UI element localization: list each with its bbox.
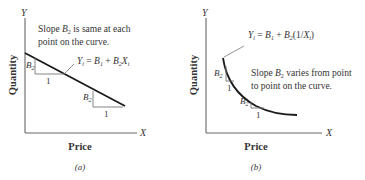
slope-note-a-line1: Slope B2 is same at each	[38, 24, 131, 35]
x-axis-label-b: X	[325, 127, 333, 138]
equation-leader-b	[224, 46, 244, 57]
triangle-a1-rise: B2	[26, 60, 35, 71]
equation-a: Yi = B1 + B2Xi	[77, 56, 130, 67]
triangle-a2-run: 1	[104, 109, 109, 119]
y-axis-label-a: Y	[21, 7, 28, 18]
triangle-b1-run: 1	[227, 83, 232, 93]
equation-leader-a	[64, 64, 74, 74]
x-axis-label-a: X	[139, 127, 147, 138]
triangle-a1-run: 1	[46, 76, 51, 86]
triangle-a2-rise: B2	[83, 92, 92, 103]
y-title-a: Quantity	[7, 54, 18, 95]
triangle-b2-rise: B2	[240, 96, 249, 107]
panel-b: Y X Quantity Price (b) B2 1 B2 1 Yi = B1…	[188, 7, 352, 172]
triangle-b2-run: 1	[256, 110, 261, 120]
panel-a: Y X Quantity Price (a) B2 1 B2 1 Yi = B1…	[7, 7, 147, 172]
slope-note-b-line1: Slope B2 varies from point	[251, 68, 352, 79]
caption-a: (a)	[75, 162, 86, 172]
equation-b: Yi = B1 + B2(1/Xi)	[248, 30, 314, 41]
slope-note-b-line2: to point on the curve.	[251, 81, 332, 91]
regression-forms-diagram: Y X Quantity Price (a) B2 1 B2 1 Yi = B1…	[0, 0, 365, 180]
triangle-b1-rise: B2	[214, 68, 223, 79]
slope-triangle-a2	[93, 91, 123, 107]
x-title-a: Price	[68, 141, 92, 152]
slope-note-a-line2: point on the curve.	[38, 37, 109, 47]
caption-b: (b)	[251, 162, 262, 172]
y-title-b: Quantity	[188, 54, 199, 95]
x-title-b: Price	[244, 141, 268, 152]
y-axis-label-b: Y	[202, 7, 209, 18]
